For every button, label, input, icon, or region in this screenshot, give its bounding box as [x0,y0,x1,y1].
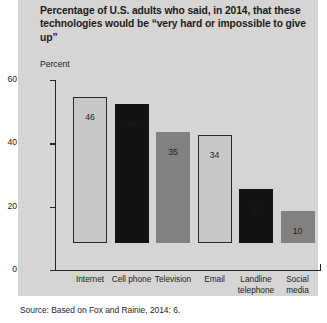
y-tick-label: 60 [7,74,17,84]
category-label: Internet [67,274,113,285]
y-axis-line [55,80,56,270]
y-tick-mark [50,80,55,81]
category-label: Social media [275,274,321,295]
bar-value-label: 46 [73,112,107,122]
y-tick-label: 0 [12,264,17,274]
figure-container: Percentage of U.S. adults who said, in 2… [0,0,327,323]
y-tick-label: 20 [7,201,17,211]
plot-area: 0204060 464435341710 InternetCell phoneT… [18,0,318,296]
bar-value-label: 35 [156,147,190,157]
y-tick-mark [50,143,55,144]
bar-value-label: 17 [239,204,273,214]
y-tick-mark [50,207,55,208]
category-label: Television [150,274,196,285]
category-label: Email [192,274,238,285]
bar-value-label: 44 [115,119,149,129]
bar-value-label: 34 [198,150,232,160]
category-label: Cell phone [109,274,155,285]
x-axis-line [55,270,321,271]
bar-value-label: 10 [281,226,315,236]
category-label: Landline telephone [233,274,279,295]
source-note: Source: Based on Fox and Rainie, 2014: 6… [20,305,180,315]
bar-landline-telephone [239,189,273,243]
y-tick-mark [50,270,55,271]
y-tick-label: 40 [7,137,17,147]
x-axis-end-cap [320,264,321,270]
